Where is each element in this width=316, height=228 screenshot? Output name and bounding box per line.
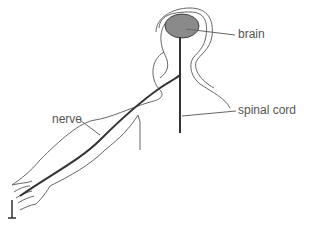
spinal-cord-leader xyxy=(182,111,236,116)
spinal-cord-label: spinal cord xyxy=(238,104,296,116)
nerve-leader xyxy=(80,120,100,135)
nervous-system-diagram: brain spinal cord nerve xyxy=(0,0,316,228)
nerve-line xyxy=(20,75,180,196)
nerve-label: nerve xyxy=(52,113,82,125)
brain-shape xyxy=(165,14,199,38)
brain-label: brain xyxy=(238,28,265,40)
